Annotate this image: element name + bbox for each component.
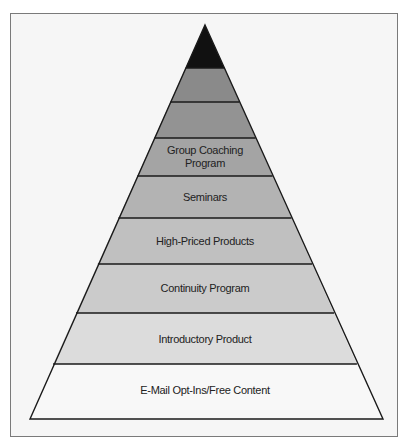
pyramid-layer-apex: [186, 25, 225, 68]
pyramid-diagram: Group Coaching Program Seminars High-Pri…: [0, 0, 406, 448]
label-introductory-product: Introductory Product: [158, 333, 251, 345]
pyramid-layer-2: [171, 68, 240, 102]
label-high-priced-products: High-Priced Products: [156, 235, 255, 247]
pyramid-layer-3: [154, 102, 255, 138]
label-continuity-program: Continuity Program: [161, 282, 250, 294]
label-email-opt-ins: E-Mail Opt-Ins/Free Content: [140, 384, 270, 396]
label-group-coaching-line2: Program: [185, 157, 225, 169]
label-group-coaching-line1: Group Coaching: [167, 144, 243, 156]
label-seminars: Seminars: [183, 191, 228, 203]
